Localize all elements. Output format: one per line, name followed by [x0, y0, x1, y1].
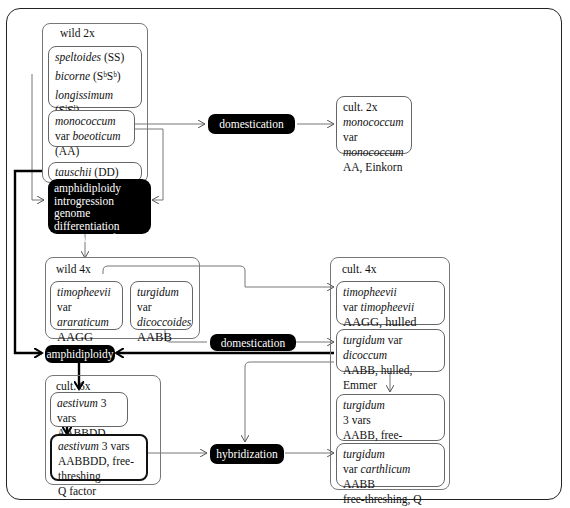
aestivum-hulled-box: aestivum 3 vars AABBDD, hulled [50, 392, 128, 427]
hybridization-process: hybridization [210, 444, 284, 464]
cult-4x-title: cult. 4x [342, 263, 377, 275]
timopheevii-araraticum-box: timopheevii var araraticum AAGG [50, 281, 123, 330]
bicorne-line: bicorne (SᵇSᵇ) [55, 69, 135, 84]
amphidiploidy-introgression-block: amphidiploidy introgression genome diffe… [48, 179, 151, 234]
cult-6x-title: cult. 6x [56, 380, 91, 392]
turgidum-carthlicum-box: turgidum var carthlicum AABB free-thresh… [336, 443, 445, 487]
speltoides-line: speltoides (SS) [55, 50, 135, 65]
turgidum-dicoccum-box: turgidum var dicoccum AABB, hulled, Emme… [336, 329, 445, 372]
domestication-process-mid: domestication [210, 334, 296, 351]
amphidiploidy-process: amphidiploidy [45, 345, 115, 363]
timopheevii-timopheevii-box: timopheevii var timopheevii AAGG, hulled [336, 281, 445, 325]
turgidum-3-vars-box: turgidum 3 vars AABB, free-threshing [336, 394, 445, 441]
cult-2x-box: cult. 2x monococcum var monococcum AA, E… [336, 96, 412, 154]
wild-2x-title: wild 2x [60, 27, 95, 39]
wild-4x-title: wild 4x [56, 263, 91, 275]
aestivum-free-threshing-box: aestivum 3 vars AABBDD, free-threshing Q… [50, 434, 148, 481]
domestication-process-top: domestication [208, 114, 295, 134]
monococcum-boeoticum-box: monococcum var boeoticum (AA) [48, 110, 135, 147]
turgidum-dicoccoides-box: turgidum var dicoccoides AABB [130, 281, 193, 330]
aegilops-species-box: speltoides (SS) bicorne (SᵇSᵇ) longissim… [48, 46, 142, 108]
